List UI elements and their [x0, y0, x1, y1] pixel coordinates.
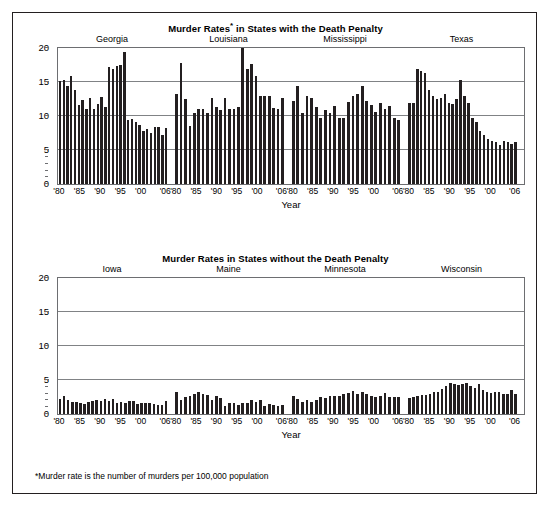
x-axis-labels-top: '80'85'90'95'00'06'80'85'90'95'00'06'80'…	[57, 185, 525, 199]
bar	[95, 400, 98, 414]
state-label-minnesota: Minnesota	[290, 264, 400, 274]
x-tick-label: '90	[211, 186, 222, 196]
bar	[342, 394, 345, 414]
y-minor-tick-bottom-2	[45, 399, 48, 400]
y-tick-bottom-15	[45, 311, 49, 312]
plot-wrap-top: 05101520	[57, 47, 525, 185]
bar	[412, 103, 414, 184]
chart-title-top-main: Murder Rates	[168, 23, 230, 34]
bar	[467, 103, 469, 184]
bar	[370, 105, 373, 185]
x-tick-label: '06	[160, 186, 171, 196]
bar	[310, 98, 313, 184]
bar	[93, 109, 95, 184]
bar	[189, 396, 192, 414]
bar	[116, 403, 119, 414]
bar	[250, 64, 253, 184]
bar	[128, 401, 131, 414]
bar	[219, 398, 222, 414]
x-tick-label: '00	[485, 186, 496, 196]
bar	[272, 405, 275, 414]
bar	[429, 394, 432, 414]
bar	[246, 69, 249, 184]
x-tick-label: '06	[392, 186, 403, 196]
bar	[329, 113, 332, 184]
bar	[224, 406, 227, 414]
state-labels-top: GeorgiaLouisianaMississippiTexas	[57, 34, 525, 47]
bar-group-louisiana	[175, 48, 285, 184]
bar	[397, 120, 400, 184]
bar	[365, 394, 368, 414]
bar	[246, 403, 249, 414]
x-tick-label: '85	[423, 416, 434, 426]
bar	[228, 403, 231, 414]
bar	[421, 395, 424, 414]
bar	[272, 108, 275, 184]
bar	[324, 110, 327, 184]
y-minor-tick-top-1	[45, 176, 48, 177]
bar	[237, 405, 240, 414]
bar	[89, 98, 91, 184]
bar	[161, 405, 164, 414]
bar	[463, 96, 465, 184]
bar	[457, 385, 460, 414]
x-tick-label: '80	[170, 416, 181, 426]
bar-group-minnesota	[291, 278, 401, 414]
bar	[478, 384, 481, 414]
x-tick-label: '80	[287, 416, 298, 426]
bar	[142, 131, 144, 184]
bar	[495, 142, 497, 184]
x-axis-title-bottom: Year	[57, 429, 525, 440]
bar	[338, 118, 341, 185]
x-tick-label: '95	[464, 416, 475, 426]
bar	[97, 104, 99, 184]
x-tick-label: '06	[160, 416, 171, 426]
x-tick-label: '85	[190, 416, 201, 426]
bar	[255, 76, 258, 184]
bar	[108, 401, 111, 414]
x-tick-label: '85	[74, 416, 85, 426]
bar	[197, 109, 200, 184]
x-tick-label: '90	[327, 186, 338, 196]
bar	[315, 107, 318, 184]
bar	[416, 396, 419, 414]
bar	[428, 90, 430, 184]
bar-group-wisconsin	[408, 278, 518, 414]
bar	[140, 403, 143, 414]
bar	[138, 125, 140, 184]
bar	[131, 119, 133, 184]
y-minor-tick-bottom-1	[45, 406, 48, 407]
bar	[333, 396, 336, 414]
bar	[250, 400, 253, 414]
x-tick-label: '90	[211, 416, 222, 426]
bar	[154, 127, 156, 184]
bar	[202, 394, 205, 414]
bar	[100, 401, 103, 414]
plot-area-top	[57, 47, 525, 185]
bar	[361, 86, 364, 185]
y-minor-tick-top-2	[45, 170, 48, 171]
bar	[474, 388, 477, 414]
chart-title-top-rest: in States with the Death Penalty	[233, 23, 383, 34]
state-labels-bottom: IowaMaineMinnesotaWisconsin	[57, 264, 525, 277]
x-tick-label: '90	[444, 186, 455, 196]
chart-title-bottom: Murder Rates in States without the Death…	[13, 253, 538, 264]
x-tick-label: '95	[348, 186, 359, 196]
bar	[197, 392, 200, 414]
bar	[436, 99, 438, 184]
x-tick-label: '00	[485, 416, 496, 426]
bar	[514, 142, 516, 184]
bar	[490, 393, 493, 414]
x-tick-label: '06	[276, 186, 287, 196]
x-tick-label: '00	[368, 416, 379, 426]
state-label-texas: Texas	[407, 34, 517, 44]
bar	[112, 399, 115, 414]
bar	[384, 393, 387, 414]
x-tick-label: '90	[327, 416, 338, 426]
bar	[370, 396, 373, 414]
x-tick-label: '80	[403, 186, 414, 196]
bar	[424, 73, 426, 184]
bar	[333, 106, 336, 184]
y-minor-tick-top-4	[45, 156, 48, 157]
bar	[445, 386, 448, 414]
